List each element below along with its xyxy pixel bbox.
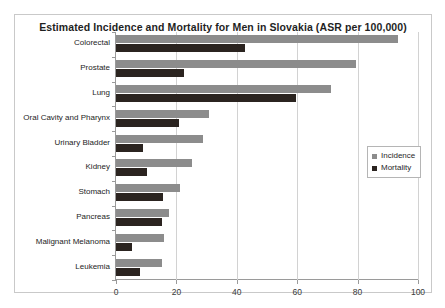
chart-container: Estimated Incidence and Mortality for Me… (14, 14, 432, 293)
bar-mortality (116, 193, 163, 201)
bar-row: Oral Cavity and Pharynx (116, 106, 418, 131)
category-label: Colorectal (0, 38, 110, 47)
legend-item-mortality: Mortality (372, 162, 415, 174)
bar-mortality (116, 144, 143, 152)
x-axis-tick (297, 280, 298, 284)
legend-swatch-mortality (372, 166, 377, 171)
legend-label-incidence: Incidence (381, 150, 415, 162)
bar-row: Colorectal (116, 32, 418, 57)
category-label: Leukemia (0, 262, 110, 271)
x-axis-tick-label: 60 (277, 287, 317, 297)
bar-row: Malignant Melanoma (116, 230, 418, 255)
x-axis-tick-label: 40 (217, 287, 257, 297)
bar-mortality (116, 94, 296, 102)
bar-mortality (116, 268, 140, 276)
category-label: Lung (0, 88, 110, 97)
bar-row: Prostate (116, 57, 418, 82)
bar-incidence (116, 110, 209, 118)
x-axis-tick (358, 280, 359, 284)
y-axis-tick (112, 280, 116, 281)
bar-incidence (116, 85, 331, 93)
chart-legend: Incidence Mortality (367, 146, 421, 178)
bar-incidence (116, 259, 162, 267)
bar-incidence (116, 209, 169, 217)
bar-incidence (116, 159, 192, 167)
x-axis-tick (237, 280, 238, 284)
bar-mortality (116, 44, 245, 52)
bar-incidence (116, 135, 203, 143)
x-axis-tick (418, 280, 419, 284)
x-axis-tick-label: 100 (398, 287, 438, 297)
bar-mortality (116, 69, 184, 77)
legend-label-mortality: Mortality (381, 162, 411, 174)
x-axis-tick-label: 80 (338, 287, 378, 297)
bar-row: Stomach (116, 181, 418, 206)
x-axis-tick (176, 280, 177, 284)
bar-mortality (116, 243, 132, 251)
x-axis-tick-label: 0 (96, 287, 136, 297)
category-label: Malignant Melanoma (0, 237, 110, 246)
bar-row: Leukemia (116, 255, 418, 280)
category-label: Pancreas (0, 212, 110, 221)
bar-incidence (116, 234, 164, 242)
x-axis-tick (116, 280, 117, 284)
bar-incidence (116, 60, 356, 68)
bar-row: Lung (116, 82, 418, 107)
bar-incidence (116, 184, 180, 192)
bar-mortality (116, 119, 179, 127)
bar-row: Pancreas (116, 206, 418, 231)
category-label: Prostate (0, 63, 110, 72)
legend-swatch-incidence (372, 154, 377, 159)
category-label: Oral Cavity and Pharynx (0, 113, 110, 122)
bar-incidence (116, 35, 398, 43)
category-label: Urinary Bladder (0, 138, 110, 147)
category-label: Stomach (0, 187, 110, 196)
bar-mortality (116, 218, 162, 226)
x-axis-tick-label: 20 (156, 287, 196, 297)
legend-item-incidence: Incidence (372, 150, 415, 162)
category-label: Kidney (0, 162, 110, 171)
bar-mortality (116, 168, 147, 176)
